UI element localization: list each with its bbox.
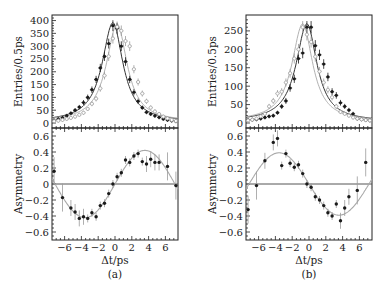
data-point-filled [322, 62, 325, 65]
fit-curve-light [52, 24, 178, 118]
asymmetry-data-point [174, 184, 177, 187]
asymmetry-data-point [318, 198, 321, 201]
y-tick-label: 0.6 [227, 131, 243, 142]
data-point-filled [305, 26, 308, 29]
data-point-open [166, 117, 169, 120]
y-tick-label: 0 [43, 179, 49, 190]
asymmetry-data-point [141, 160, 144, 163]
data-point-filled [107, 42, 110, 45]
y-axis-label-asymmetry: Asymmetry [12, 154, 24, 215]
data-point-open [347, 114, 350, 117]
data-point-open [326, 88, 329, 91]
data-point-filled [90, 88, 93, 91]
y-tick-label: 0.4 [33, 147, 49, 158]
data-point-open [149, 106, 152, 109]
data-point-open [364, 118, 367, 121]
x-tick-label: 2 [129, 242, 135, 253]
y-tick-label: 200 [224, 44, 243, 55]
data-point-open [86, 107, 89, 110]
y-tick-label: 0.2 [33, 163, 49, 174]
data-point-filled [318, 53, 321, 56]
data-point-open [247, 119, 250, 122]
x-tick-label: 4 [339, 242, 345, 253]
data-point-filled [158, 116, 161, 119]
data-point-open [276, 92, 279, 95]
x-tick-label: −2 [285, 242, 300, 253]
data-point-filled [74, 109, 77, 112]
x-axis-label: Δt/ps [295, 254, 322, 266]
y-tick-label: −0.2 [219, 195, 243, 206]
data-point-open [170, 118, 173, 121]
asymmetry-data-point [124, 158, 127, 161]
data-point-open [120, 29, 123, 32]
data-point-filled [128, 78, 131, 81]
data-point-filled [111, 24, 114, 27]
y-tick-label: 300 [30, 41, 49, 52]
data-point-filled [124, 60, 127, 63]
data-point-open [90, 102, 93, 105]
asymmetry-data-point [293, 166, 296, 169]
data-point-open [158, 112, 161, 115]
data-point-open [74, 115, 77, 118]
asymmetry-data-point [272, 141, 275, 144]
y-tick-label: 250 [224, 25, 243, 36]
data-point-filled [297, 57, 300, 60]
asymmetry-data-point [305, 182, 308, 185]
fit-curve-light [246, 24, 372, 119]
asymmetry-data-point [132, 154, 135, 157]
data-point-open [310, 40, 313, 43]
y-tick-label: 0.6 [33, 131, 49, 142]
y-tick-label: 150 [224, 62, 243, 73]
x-tick-label: 0 [306, 242, 312, 253]
data-point-open [352, 116, 355, 119]
x-tick-label: −6 [57, 242, 72, 253]
data-point-filled [268, 115, 271, 118]
asymmetry-data-point [107, 192, 110, 195]
asymmetry-data-point [78, 217, 81, 220]
data-point-open [314, 55, 317, 58]
asymmetry-data-point [166, 165, 169, 168]
asymmetry-data-point [288, 162, 291, 165]
asymmetry-data-point [326, 211, 329, 214]
panel-caption: (b) [302, 268, 317, 280]
data-point-open [78, 113, 81, 116]
y-tick-label: 0.2 [227, 163, 243, 174]
data-point-filled [284, 99, 287, 102]
data-point-open [293, 57, 296, 60]
asymmetry-data-point [157, 161, 160, 164]
data-point-filled [132, 91, 135, 94]
x-tick-label: 0 [112, 242, 118, 253]
data-point-open [111, 37, 114, 40]
data-point-filled [347, 109, 350, 112]
data-point-open [82, 111, 85, 114]
data-point-filled [280, 105, 283, 108]
asymmetry-data-point [343, 206, 346, 209]
asymmetry-data-point [128, 161, 131, 164]
figure: −6−4−20246Δt/ps(a)0501001502002503003504… [0, 0, 384, 296]
data-point-open [356, 117, 359, 120]
data-point-filled [293, 77, 296, 80]
y-tick-label: 350 [30, 28, 49, 39]
data-point-open [137, 80, 140, 83]
panel-a: −6−4−20246Δt/ps(a)0501001502002503003504… [12, 15, 178, 280]
asymmetry-data-point [111, 182, 114, 185]
y-tick-label: 250 [30, 53, 49, 64]
data-point-filled [86, 96, 89, 99]
x-tick-label: 2 [323, 242, 329, 253]
x-tick-label: 6 [356, 242, 362, 253]
data-point-filled [335, 94, 338, 97]
asymmetry-data-point [330, 214, 333, 217]
x-tick-label: −6 [251, 242, 266, 253]
asymmetry-data-point [61, 196, 64, 199]
y-tick-label: −0.4 [25, 211, 49, 222]
data-point-open [107, 55, 110, 58]
asymmetry-data-point [153, 161, 156, 164]
asymmetry-data-point [322, 204, 325, 207]
asymmetry-data-point [347, 195, 350, 198]
y-tick-label: 100 [224, 81, 243, 92]
data-point-filled [141, 106, 144, 109]
asymmetry-data-point [364, 161, 367, 164]
asymmetry-data-point [263, 159, 266, 162]
data-point-open [259, 115, 262, 118]
asymmetry-data-point [115, 175, 118, 178]
